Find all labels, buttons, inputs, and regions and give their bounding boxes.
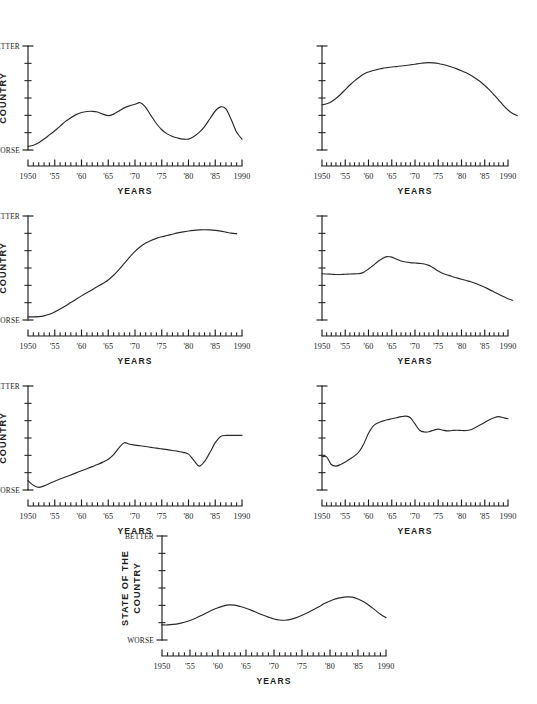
y-axis-title-line2: COUNTRY <box>0 242 8 293</box>
chart-panel-3: BETTERWORSESTATE OF THECOUNTRY1950'55'60… <box>0 208 256 358</box>
x-tick-label: 1950 <box>20 512 37 521</box>
x-tick-label: '80 <box>184 172 194 181</box>
x-tick-label: '85 <box>210 512 220 521</box>
x-tick-label: '65 <box>387 172 397 181</box>
x-tick-label: 1950 <box>20 342 37 351</box>
x-tick-label: '70 <box>410 172 420 181</box>
y-axis-worse-label: WORSE <box>127 636 154 645</box>
x-tick-label: '65 <box>103 342 113 351</box>
x-tick-label: 1990 <box>234 342 251 351</box>
x-tick-label: '65 <box>387 512 397 521</box>
x-tick-label: 1950 <box>314 342 331 351</box>
x-axis-title: YEARS <box>397 186 432 196</box>
data-line-panel-5 <box>28 435 242 487</box>
x-tick-label: '75 <box>157 512 167 521</box>
y-axis-better-label: BETTER <box>0 382 20 391</box>
y-axis-better-label: BETTER <box>0 42 20 51</box>
y-axis-title-line2: COUNTRY <box>0 72 8 123</box>
x-tick-label: '60 <box>364 172 374 181</box>
x-tick-label: '80 <box>184 512 194 521</box>
x-tick-label: 1990 <box>234 512 251 521</box>
data-line-panel-2 <box>322 63 517 116</box>
x-axis <box>28 500 242 507</box>
x-axis <box>322 500 508 507</box>
x-tick-label: '55 <box>185 662 195 671</box>
x-tick-label: 1990 <box>500 512 517 521</box>
x-tick-label: '85 <box>353 662 363 671</box>
x-tick-label: '65 <box>241 662 251 671</box>
y-axis-worse-label: WORSE <box>0 316 20 325</box>
x-tick-label: '55 <box>340 342 350 351</box>
y-axis-title-line2: COUNTRY <box>0 412 8 463</box>
y-axis <box>23 46 34 150</box>
x-tick-label: '75 <box>157 342 167 351</box>
x-axis <box>28 330 242 337</box>
data-line-panel-7 <box>162 597 386 625</box>
x-tick-label: '65 <box>387 342 397 351</box>
x-tick-label: '55 <box>50 512 60 521</box>
y-axis-worse-label: WORSE <box>0 486 20 495</box>
y-axis-title-line1: STATE OF THE <box>120 550 130 626</box>
chart-panel-7: BETTERWORSESTATE OF THECOUNTRY1950'55'60… <box>100 528 400 688</box>
x-tick-label: '80 <box>457 342 467 351</box>
data-line-panel-6 <box>322 416 508 466</box>
x-axis <box>162 650 386 657</box>
x-tick-label: '85 <box>480 342 490 351</box>
y-axis <box>23 386 34 490</box>
x-axis <box>322 160 508 167</box>
x-tick-label: '80 <box>184 342 194 351</box>
x-tick-label: '80 <box>325 662 335 671</box>
x-tick-label: '55 <box>50 172 60 181</box>
x-tick-label: '70 <box>130 172 140 181</box>
x-tick-label: '60 <box>364 512 374 521</box>
data-line-panel-4 <box>322 256 513 300</box>
x-tick-label: '55 <box>340 512 350 521</box>
x-tick-label: 1990 <box>500 342 517 351</box>
x-tick-label: '55 <box>340 172 350 181</box>
y-axis-worse-label: WORSE <box>0 146 20 155</box>
y-axis <box>317 46 328 150</box>
x-tick-label: '75 <box>433 512 443 521</box>
data-line-panel-3 <box>28 230 237 317</box>
x-tick-label: '70 <box>269 662 279 671</box>
x-tick-label: 1950 <box>154 662 171 671</box>
x-tick-label: '70 <box>130 342 140 351</box>
x-tick-label: '75 <box>157 172 167 181</box>
x-tick-label: 1950 <box>314 512 331 521</box>
x-tick-label: '80 <box>457 172 467 181</box>
x-tick-label: '85 <box>210 342 220 351</box>
chart-panel-2: 1950'55'60'65'70'75'80'851990YEARS <box>260 38 522 188</box>
x-tick-label: 1990 <box>378 662 395 671</box>
y-axis-title-line2: COUNTRY <box>132 562 142 613</box>
x-tick-label: '85 <box>480 172 490 181</box>
x-tick-label: '60 <box>77 512 87 521</box>
x-axis-title: YEARS <box>117 356 152 366</box>
x-tick-label: '85 <box>210 172 220 181</box>
x-tick-label: '75 <box>297 662 307 671</box>
x-tick-label: '75 <box>433 172 443 181</box>
x-axis-title: YEARS <box>397 356 432 366</box>
chart-panel-5: BETTERWORSESTATE OF THECOUNTRY1950'55'60… <box>0 378 256 528</box>
y-axis-better-label: BETTER <box>125 532 154 541</box>
x-tick-label: '55 <box>50 342 60 351</box>
y-axis <box>23 216 34 320</box>
data-line-panel-1 <box>28 103 242 147</box>
x-tick-label: '60 <box>77 172 87 181</box>
x-tick-label: '70 <box>130 512 140 521</box>
x-axis-title: YEARS <box>117 186 152 196</box>
x-axis <box>28 160 242 167</box>
x-tick-label: '70 <box>410 342 420 351</box>
x-axis-title: YEARS <box>256 676 291 686</box>
chart-panel-1: BETTERWORSESTATE OF THECOUNTRY1950'55'60… <box>0 38 256 188</box>
x-tick-label: 1990 <box>500 172 517 181</box>
chart-panel-4: 1950'55'60'65'70'75'80'851990YEARS <box>260 208 522 358</box>
x-tick-label: '60 <box>364 342 374 351</box>
y-axis-better-label: BETTER <box>0 212 20 221</box>
x-tick-label: '75 <box>433 342 443 351</box>
x-tick-label: '60 <box>77 342 87 351</box>
x-tick-label: 1990 <box>234 172 251 181</box>
y-axis <box>317 386 328 490</box>
x-tick-label: 1950 <box>20 172 37 181</box>
figure-page: BETTERWORSESTATE OF THECOUNTRY1950'55'60… <box>0 0 537 704</box>
x-tick-label: '65 <box>103 512 113 521</box>
